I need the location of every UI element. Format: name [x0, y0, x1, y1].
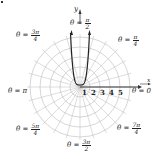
radial-tick-4: 4: [109, 89, 114, 96]
angle-label-zero: θ = 0: [132, 88, 151, 95]
radial-tick-5: 5: [118, 89, 123, 96]
angle-label-7pi-over-4: θ = 7π4: [117, 122, 141, 135]
angle-label-5pi-over-4: θ = 5π4: [16, 123, 40, 136]
angle-label-pi: θ = π: [8, 88, 27, 95]
curve-arrow-left-icon: [70, 30, 73, 35]
y-axis-label: y: [74, 6, 78, 13]
y-axis-arrow-icon: [79, 9, 82, 14]
radial-tick-3: 3: [100, 89, 105, 96]
angle-label-pi-over-2: θ = π2: [70, 17, 91, 30]
angle-label-pi-over-4: θ = π4: [118, 34, 139, 47]
radial-tick-2: 2: [91, 89, 96, 96]
radial-tick-1: 1: [82, 89, 87, 96]
curve-arrow-right-icon: [88, 30, 91, 35]
angle-label-3pi-over-2: θ = 3π2: [67, 139, 91, 152]
x-axis-label: x: [147, 77, 150, 83]
x-axis-arrow-icon: [148, 83, 151, 85]
angle-label-3pi-over-4: θ = 3π4: [16, 29, 40, 42]
